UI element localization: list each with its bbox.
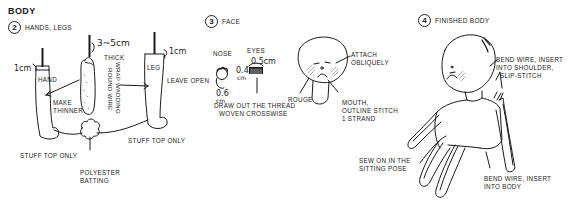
make-thinner-text: MAKE THINNER — [53, 99, 89, 115]
leg-drawing — [145, 32, 168, 129]
sew-label-2: SITTING POSE — [359, 165, 407, 173]
step-4-heading: 4 FINISHED BODY — [418, 14, 489, 27]
hand-drawing — [33, 48, 59, 139]
leg-measure: 1cm — [169, 47, 186, 56]
eye-drawing — [249, 63, 263, 93]
batting-puff — [81, 119, 100, 150]
mouth-leader — [328, 80, 338, 92]
step-2-heading: 2 HANDS, LEGS — [8, 21, 72, 34]
shoulder-label-2: INTO SHOULDER, — [496, 64, 554, 72]
step-label: FACE — [222, 18, 240, 25]
section-title: BODY — [8, 6, 36, 16]
eyes-label: EYES — [247, 47, 265, 55]
mouth-label-1: MOUTH, — [342, 99, 369, 107]
batting-label-2: BATTING — [80, 177, 109, 185]
nose-drawing — [216, 68, 227, 89]
draw-out-label-2: WOVEN CROSSWISE — [219, 110, 288, 118]
eye-width-measure: 0.5cm — [251, 57, 276, 66]
rouge-leader — [300, 78, 309, 93]
step-label: FINISHED BODY — [435, 17, 489, 24]
arrow-to-leg — [120, 85, 148, 86]
thick-label: THICK — [104, 54, 124, 62]
sew-label-1: SEW ON IN THE — [359, 157, 411, 165]
step-3-heading: 3 FACE — [205, 15, 240, 28]
wrap-wadding-label-1: WRAP WADDING — [114, 62, 122, 114]
draw-out-label-1: DRAW OUT THE THREAD — [214, 102, 295, 110]
shoulder-label-1: BEND WIRE, INSERT — [496, 56, 563, 64]
wrap-wadding-label-2: ROUND WIRE — [106, 68, 114, 110]
face-drawing — [298, 37, 350, 104]
leg-label: LEG — [147, 64, 161, 72]
eye-height-unit: cm — [237, 74, 246, 81]
stuff-top-only-right: STUFF TOP ONLY — [128, 137, 185, 145]
mouth-label-2: OUTLINE STITCH — [342, 107, 398, 115]
hand-measure: 1cm — [14, 64, 31, 73]
step-label: HANDS, LEGS — [25, 24, 72, 31]
nose-label: NOSE — [213, 50, 232, 58]
step-number-badge: 2 — [8, 21, 21, 34]
body-label-1: BEND WIRE, INSERT — [484, 175, 551, 183]
stuff-top-only-left: STUFF TOP ONLY — [20, 152, 77, 160]
hand-label: HAND — [38, 76, 57, 84]
body-leader — [486, 152, 490, 168]
rouge-label: ROUGE — [288, 96, 313, 104]
make-thinner-label: MAKE THINNER — [53, 99, 89, 115]
attach-label-1: ATTACH — [351, 51, 377, 59]
shoulder-label-3: SLIP-STITCH — [500, 72, 542, 80]
body-label-2: INTO BODY — [484, 183, 521, 191]
attach-label-2: OBLIQUELY — [351, 59, 389, 67]
step-number-badge: 3 — [205, 15, 218, 28]
wire-measure: 3~5cm — [97, 38, 130, 48]
stuff-line-right — [97, 120, 148, 133]
mouth-label-3: 1 STRAND — [342, 115, 376, 123]
batting-label-1: POLYESTER — [80, 169, 120, 177]
leave-open-label: LEAVE OPEN — [167, 77, 209, 85]
step-number-badge: 4 — [418, 14, 431, 27]
